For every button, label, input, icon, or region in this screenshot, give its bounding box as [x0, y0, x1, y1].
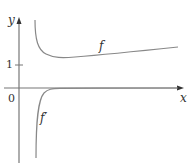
curve-f: [35, 20, 178, 58]
curve-f-label: f: [99, 40, 103, 52]
x-axis-label: x: [180, 92, 187, 104]
x-axis-arrow-icon: [177, 86, 184, 91]
y-axis-label: y: [8, 14, 15, 26]
origin-label: 0: [8, 93, 15, 104]
y-tick-label-1: 1: [6, 59, 13, 70]
curve-fprime-label: f′: [40, 112, 47, 124]
y-axis-arrow-icon: [17, 17, 22, 24]
graph-canvas: [0, 0, 189, 163]
curve-fprime: [36, 88, 178, 158]
